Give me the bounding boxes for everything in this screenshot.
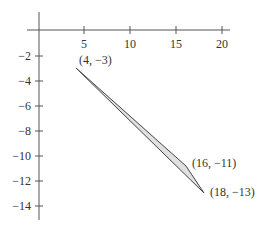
x-tick-label: 15: [170, 37, 182, 51]
x-tick-label: 20: [216, 37, 228, 51]
x-tick-label: 5: [81, 37, 87, 51]
point-label-c: (18, −13): [210, 185, 255, 199]
y-tick-label: −8: [18, 124, 31, 138]
point-label-b: (16, −11): [192, 156, 236, 170]
point-label-a: (4, −3): [79, 53, 112, 67]
chart: 5 10 15 20 −2 −4 −6 −8 −10 −12 −14 (4, −…: [0, 0, 262, 229]
y-tick-label: −2: [18, 49, 31, 63]
y-tick-label: −12: [12, 174, 31, 188]
x-tick-label: 10: [124, 37, 136, 51]
y-tick-label: −14: [12, 199, 31, 213]
y-tick-label: −10: [12, 149, 31, 163]
y-tick-label: −4: [18, 74, 31, 88]
triangle-polygon: [76, 68, 204, 193]
y-tick-label: −6: [18, 99, 31, 113]
